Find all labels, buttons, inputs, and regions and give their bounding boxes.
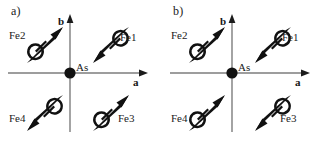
axis-a-arrowhead: [139, 70, 148, 77]
spin-arrow-fe1: [88, 22, 134, 68]
figure-root: a) b a As Fe2: [0, 0, 324, 141]
panel-a: a) b a As Fe2: [0, 0, 162, 141]
origin-dot-icon: [64, 67, 75, 78]
site-label-fe4: Fe4: [9, 113, 26, 124]
spin-arrow-fe2: [22, 22, 68, 68]
origin-dot-icon: [226, 67, 237, 78]
origin-label-as: As: [238, 62, 250, 73]
spin-arrow-fe4: [22, 90, 68, 136]
spin-arrow-fe4: [184, 90, 230, 136]
origin-label-as: As: [76, 62, 88, 73]
site-label-fe3: Fe3: [118, 113, 135, 124]
site-label-fe2: Fe2: [171, 30, 188, 41]
axis-label-a: a: [133, 77, 139, 88]
panel-b: b) b a As Fe2: [162, 0, 324, 141]
site-label-fe2: Fe2: [9, 30, 26, 41]
site-label-fe1: Fe1: [120, 32, 137, 43]
site-label-fe3: Fe3: [280, 113, 297, 124]
site-label-fe1: Fe1: [282, 32, 299, 43]
spin-arrow-fe2: [184, 22, 230, 68]
axis-a-arrowhead: [301, 70, 310, 77]
site-label-fe4: Fe4: [171, 113, 188, 124]
axis-label-a: a: [295, 77, 301, 88]
spin-arrow-fe1: [250, 22, 296, 68]
